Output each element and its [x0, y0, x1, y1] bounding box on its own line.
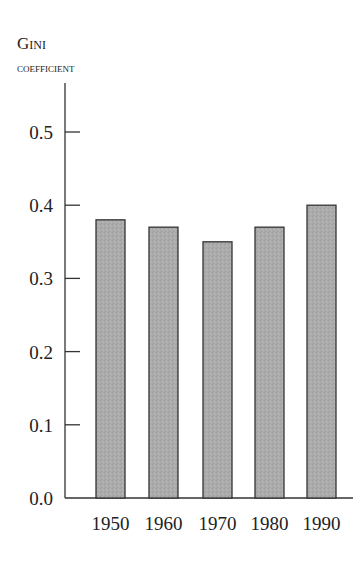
- bar-chart: 0.00.10.20.30.40.519501960197019801990: [0, 0, 363, 563]
- x-tick-label: 1960: [145, 513, 183, 534]
- x-tick-label: 1950: [92, 513, 130, 534]
- y-tick-label: 0.5: [29, 122, 53, 143]
- bar-1970: [203, 242, 232, 498]
- y-tick-label: 0.2: [29, 342, 53, 363]
- bar-1960: [149, 227, 178, 498]
- y-tick-label: 0.0: [29, 488, 53, 509]
- y-tick-label: 0.3: [29, 268, 53, 289]
- bar-1990: [307, 205, 336, 498]
- x-tick-label: 1980: [251, 513, 289, 534]
- x-tick-label: 1990: [303, 513, 341, 534]
- axis-labels: 0.00.10.20.30.40.519501960197019801990: [29, 122, 340, 534]
- y-tick-label: 0.4: [29, 195, 53, 216]
- bars: [96, 205, 336, 498]
- x-tick-label: 1970: [199, 513, 237, 534]
- y-tick-label: 0.1: [29, 415, 53, 436]
- bar-1950: [96, 220, 125, 498]
- bar-1980: [255, 227, 284, 498]
